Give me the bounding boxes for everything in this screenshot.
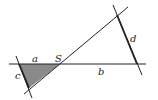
label-d: d [130, 33, 136, 44]
line-diagonal [24, 7, 128, 94]
label-S: S [55, 53, 62, 64]
label-a: a [32, 53, 38, 64]
label-b: b [98, 66, 104, 77]
shaded-triangle [19, 64, 60, 88]
label-c: c [15, 70, 21, 81]
geometry-diagram: a S b c d [0, 0, 158, 100]
